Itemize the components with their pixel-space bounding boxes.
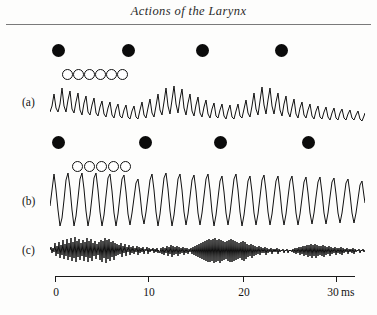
filled-circle-marker — [196, 44, 209, 57]
filled-circle-marker — [52, 44, 65, 57]
figure-panel: (a) (b) — [0, 30, 377, 315]
header-divider-rule — [6, 24, 371, 25]
axis-tick-0 — [55, 276, 56, 282]
page-canvas: Actions of the Larynx (a) (b) — [0, 0, 377, 315]
axis-unit-label: ms — [341, 286, 354, 298]
filled-circle-marker — [302, 136, 315, 149]
filled-circle-marker — [275, 44, 288, 57]
trace-label-c: (c) — [22, 244, 35, 256]
waveform-path-b — [50, 173, 365, 226]
filled-circle-marker — [122, 44, 135, 57]
open-circle-marker — [62, 69, 73, 80]
axis-tick-label-10: 10 — [143, 286, 155, 298]
page-running-head: Actions of the Larynx — [0, 4, 377, 19]
time-axis: 0 10 20 30 ms — [0, 276, 377, 315]
filled-circle-marker — [52, 136, 65, 149]
waveform-trace-a — [50, 82, 365, 130]
filled-circle-marker — [139, 136, 152, 149]
filled-marker-row-b — [0, 136, 377, 152]
axis-tick-10 — [148, 276, 149, 282]
trace-label-a: (a) — [22, 96, 35, 108]
axis-tick-20 — [243, 276, 244, 282]
axis-tick-label-0: 0 — [53, 286, 59, 298]
axis-baseline — [55, 276, 355, 277]
waveform-trace-c — [50, 228, 365, 266]
open-circle-marker — [84, 69, 95, 80]
axis-tick-label-20: 20 — [238, 286, 250, 298]
trace-label-b: (b) — [22, 195, 35, 207]
waveform-path-a — [50, 86, 365, 121]
open-circle-marker — [106, 69, 117, 80]
axis-tick-label-30: 30 — [327, 286, 339, 298]
open-circle-marker — [73, 69, 84, 80]
open-circle-marker — [117, 69, 128, 80]
filled-marker-row-a — [0, 44, 377, 60]
open-circle-marker — [95, 69, 106, 80]
axis-tick-30 — [336, 276, 337, 282]
waveform-path-c — [50, 237, 365, 263]
filled-circle-marker — [214, 136, 227, 149]
waveform-trace-b — [50, 170, 365, 232]
